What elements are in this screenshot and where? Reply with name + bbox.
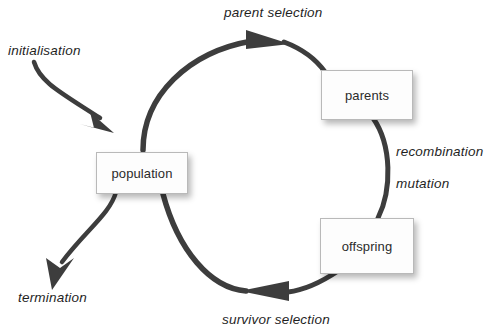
arrowhead-parent-selection [246,30,290,49]
arrow-initialisation-line [34,62,100,118]
arc-survivor-to-population [163,194,246,291]
node-parents-label: parents [345,88,389,103]
node-offspring[interactable]: offspring [320,218,414,274]
node-offspring-label: offspring [342,239,393,254]
label-parent-selection: parent selection [224,5,323,20]
arc-population-to-parents [143,41,252,150]
arc-offspring-to-survivor [288,271,338,292]
label-survivor-selection: survivor selection [222,312,330,327]
label-mutation: mutation [396,176,449,191]
arc-parents-to-offspring [373,118,388,218]
label-initialisation: initialisation [8,43,81,58]
label-recombination: recombination [396,144,483,159]
node-parents[interactable]: parents [321,70,413,120]
label-termination: termination [18,290,87,305]
diagram-canvas: population parents offspring parent sele… [0,0,491,335]
arrow-termination-line [62,192,116,262]
node-population-label: population [112,166,173,181]
node-population[interactable]: population [96,152,188,194]
arc-top-to-parents-box [284,42,325,72]
